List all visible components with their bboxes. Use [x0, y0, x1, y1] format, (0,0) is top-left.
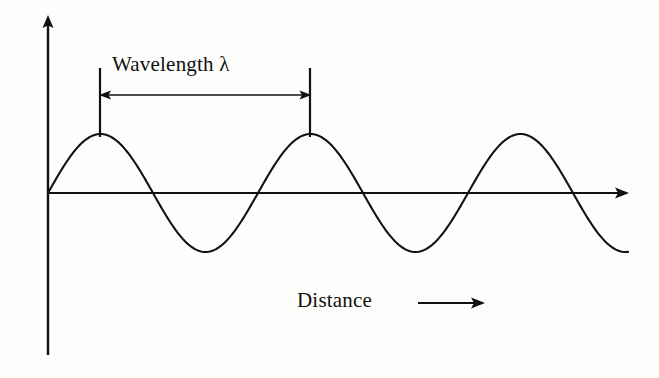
wave-diagram-svg: [0, 0, 659, 378]
distance-label: Distance: [297, 288, 372, 313]
distance-direction-arrow: [418, 298, 485, 309]
distance-axis: [47, 188, 629, 199]
wavelength-diagram: Wavelength λ Distance: [0, 0, 659, 378]
wavelength-measure-annotation: [99, 68, 312, 137]
wavelength-label: Wavelength λ: [112, 52, 230, 77]
